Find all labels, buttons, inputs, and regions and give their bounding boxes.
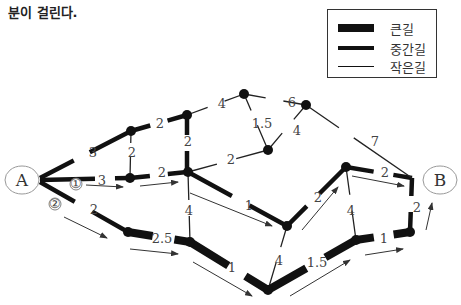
weight-n1-n5: 2 — [128, 145, 136, 160]
legend-item-small: 작은길 — [328, 57, 436, 77]
weight-a-n8: 2 — [90, 202, 98, 217]
node-n3 — [239, 89, 249, 99]
node-n14 — [405, 227, 415, 237]
edge-weights: 3 3 2 2 2 4 2 6 1.5 4 7 2 2 1 4 2.5 1 4 … — [89, 95, 421, 275]
weight-n11-n12: 2 — [314, 190, 322, 205]
node-n5 — [125, 173, 135, 183]
legend-label-small: 작은길 — [390, 57, 426, 76]
node-n1 — [126, 126, 136, 136]
weight-n12-n13: 4 — [347, 203, 355, 218]
node-n2 — [182, 110, 192, 120]
node-n6 — [183, 167, 193, 177]
weight-n2-n3: 4 — [218, 96, 226, 111]
legend-item-medium: 중간길 — [328, 39, 436, 59]
weight-n2-n6: 2 — [184, 134, 192, 149]
legend-box: 큰길 중간길 작은길 — [327, 9, 437, 78]
node-n7 — [263, 145, 273, 155]
weight-n7-n4: 4 — [293, 123, 301, 138]
node-n13 — [351, 235, 361, 245]
weight-n14-b: 2 — [413, 200, 421, 215]
weight-n6-n11: 1 — [245, 198, 253, 213]
weight-n3-n4: 6 — [288, 95, 296, 110]
weight-n11-n10: 4 — [275, 253, 283, 268]
route-marker-1: ① — [70, 176, 82, 191]
node-n10 — [263, 285, 273, 295]
weight-n1-n2: 2 — [156, 116, 164, 131]
weight-a-n1: 3 — [89, 145, 97, 160]
node-a-label: A — [15, 170, 29, 190]
route-marker-2: ② — [49, 196, 61, 211]
node-n12 — [341, 162, 351, 172]
weight-n3-n7: 1.5 — [252, 116, 273, 131]
weight-n6-n9: 4 — [185, 203, 193, 218]
node-n8 — [123, 227, 133, 237]
weight-a-n5: 3 — [98, 173, 106, 188]
medium-road-swatch — [338, 46, 374, 50]
weight-n4-b: 7 — [371, 134, 379, 149]
small-road-swatch — [338, 66, 374, 67]
weight-n8-n9: 2.5 — [152, 231, 173, 246]
node-n11 — [282, 221, 292, 231]
weight-n13-n14: 1 — [380, 231, 388, 246]
large-road-swatch — [338, 24, 374, 32]
weight-n9-n10: 1 — [228, 260, 236, 275]
node-b-label: B — [434, 170, 447, 190]
legend-label-large: 큰길 — [390, 19, 414, 38]
weight-n6-n7: 2 — [227, 152, 235, 167]
node-n4 — [301, 100, 311, 110]
weight-n12-b: 2 — [381, 165, 389, 180]
node-n9 — [185, 237, 195, 247]
legend-label-medium: 중간길 — [390, 39, 426, 58]
weight-n5-n6: 2 — [158, 165, 166, 180]
weight-n10-n13: 1.5 — [307, 255, 328, 270]
legend-item-large: 큰길 — [328, 19, 436, 39]
